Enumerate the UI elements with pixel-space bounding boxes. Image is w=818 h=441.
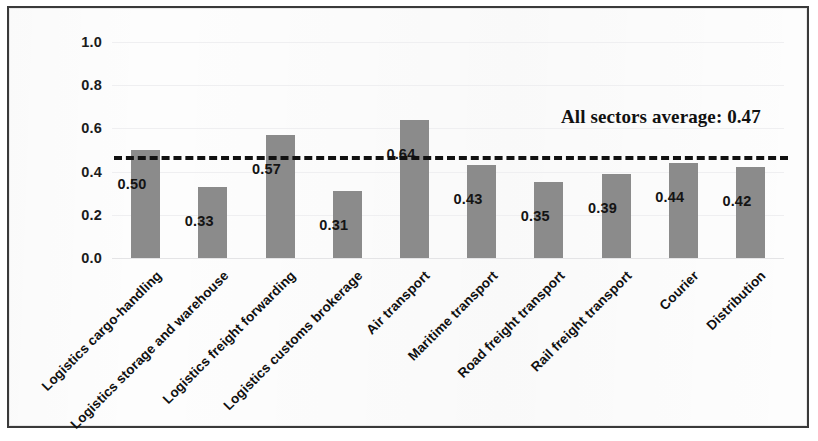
bar-value-label: 0.44: [655, 189, 684, 205]
y-axis-tick-0.2: 0.2: [81, 207, 102, 223]
x-axis-label-text: Distribution: [704, 268, 769, 333]
y-axis-tick-0.8: 0.8: [81, 77, 102, 93]
x-axis-label-text: Logistics cargo-handling: [38, 268, 164, 394]
all-sectors-average-annotation: All sectors average: 0.47: [561, 106, 761, 128]
bar[interactable]: [736, 167, 765, 258]
y-axis-tick-0.4: 0.4: [81, 164, 102, 180]
gridline-1.0: [112, 42, 784, 43]
y-axis-tick-0.0: 0.0: [81, 250, 102, 266]
x-axis-label-text: Air transport: [364, 268, 433, 337]
bar-chart: 0.00.20.40.60.81.00.500.330.570.310.640.…: [9, 8, 807, 426]
bar-value-label: 0.42: [722, 193, 751, 209]
average-reference-line: [114, 156, 788, 160]
gridline-0.8: [112, 85, 784, 86]
x-axis-label-text: Logistics customs brokerage: [221, 268, 366, 413]
x-axis-label-text: Courier: [657, 268, 702, 313]
bar[interactable]: [131, 150, 160, 258]
y-axis-tick-1.0: 1.0: [81, 34, 102, 50]
gridline-0.6: [112, 128, 784, 129]
bar-value-label: 0.50: [118, 176, 147, 192]
figure-frame: 0.00.20.40.60.81.00.500.330.570.310.640.…: [7, 6, 809, 428]
x-axis-label-text: Logistics freight forwarding: [160, 268, 299, 407]
y-axis-tick-0.6: 0.6: [81, 120, 102, 136]
bar-value-label: 0.43: [454, 191, 483, 207]
